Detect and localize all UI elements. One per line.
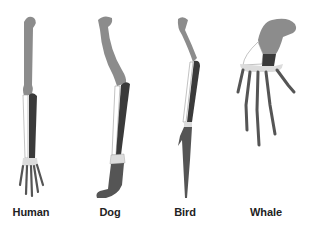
human-radius — [23, 95, 28, 158]
bird-digits — [178, 127, 192, 198]
whale-limb — [238, 19, 296, 145]
label-whale: Whale — [250, 206, 282, 218]
human-limb — [20, 17, 43, 196]
whale-humerus — [258, 19, 296, 54]
label-dog: Dog — [99, 206, 120, 218]
human-humerus — [23, 17, 36, 95]
dog-limb — [96, 16, 130, 198]
bird-carpals — [184, 122, 192, 127]
label-human: Human — [13, 206, 50, 218]
forelimb-diagram — [0, 0, 312, 231]
human-carpals — [22, 158, 38, 166]
human-phalanges — [20, 165, 43, 196]
whale-ulna — [262, 54, 276, 66]
bird-humerus — [178, 17, 197, 62]
bird-limb — [178, 17, 200, 198]
label-bird: Bird — [174, 206, 196, 218]
human-ulna — [29, 93, 37, 158]
whale-phalanges — [238, 70, 294, 145]
dog-carpals — [110, 154, 125, 164]
dog-paw — [96, 163, 124, 198]
dog-humerus — [98, 16, 126, 86]
